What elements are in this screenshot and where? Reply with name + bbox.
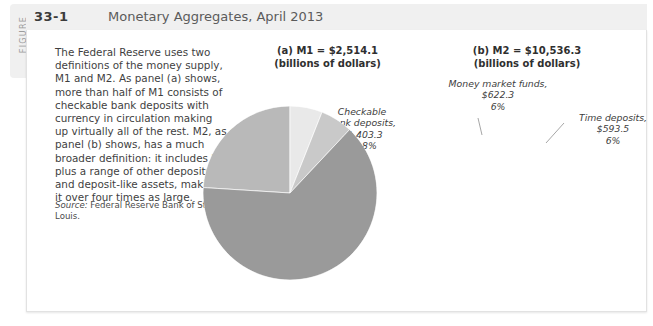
panel-a-heading: (a) M1 = $2,514.1 (billions of dollars) <box>245 44 410 70</box>
panel-a-heading-line2: (billions of dollars) <box>245 57 410 70</box>
label-time-deposits: Time deposits,$593.56% <box>565 112 653 146</box>
label-m1: M1,$2,514.124% <box>469 156 553 190</box>
figure-card: The Federal Reserve uses two definitions… <box>26 30 647 312</box>
figure-description: The Federal Reserve uses two definitions… <box>55 46 227 204</box>
panel-b-heading: (b) M2 = $10,536.3 (billions of dollars) <box>427 44 627 70</box>
leader-line-time-deposits <box>546 123 564 143</box>
label-savings-deposits: Savings deposits,$6,806.364% <box>493 246 633 280</box>
figure-number: 33-1 <box>34 9 69 24</box>
pie-chart-m2 <box>203 106 377 280</box>
leader-line-money-market <box>478 118 482 135</box>
figure-container: FIGURE 33-1 Monetary Aggregates, April 2… <box>0 0 653 326</box>
label-money-market-funds: Money market funds,$622.36% <box>435 78 561 112</box>
panel-a-heading-line1: (a) M1 = $2,514.1 <box>245 44 410 57</box>
panel-b-heading-line1: (b) M2 = $10,536.3 <box>427 44 627 57</box>
figure-title: Monetary Aggregates, April 2013 <box>108 9 323 24</box>
panel-b-heading-line2: (billions of dollars) <box>427 57 627 70</box>
figure-header: 33-1 Monetary Aggregates, April 2013 <box>26 4 647 30</box>
source-prefix: Source: <box>55 200 88 210</box>
